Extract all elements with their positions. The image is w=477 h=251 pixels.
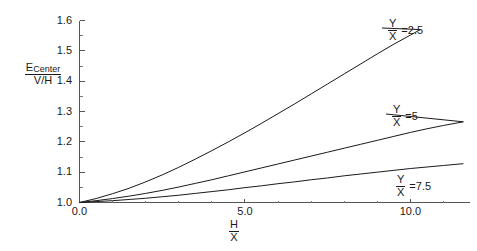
- x-tick-label: 10.0: [385, 206, 435, 217]
- y-tick-label: 1.1: [34, 166, 72, 177]
- y-tick-label: 1.3: [34, 106, 72, 117]
- series-label-fraction: YX: [392, 104, 401, 128]
- x-axis-title-numerator: H: [229, 219, 239, 232]
- series-label-denominator: X: [388, 31, 397, 43]
- series-label: YX=7.5: [396, 174, 431, 198]
- x-tick-label: 5.0: [220, 206, 270, 217]
- series-label-denominator: X: [392, 117, 401, 129]
- y-axis-title-fraction: ECenter V/H: [25, 62, 61, 86]
- series-label: YX=5: [392, 104, 418, 128]
- series-label-value: =5: [405, 111, 418, 122]
- series-label-fraction: YX: [396, 174, 405, 198]
- y-axis-title: ECenter V/H: [12, 62, 74, 86]
- series-label: YX=2.5: [388, 18, 423, 42]
- chart-figure: 1.01.11.21.31.41.51.6 0.05.010.0 YX=2.5Y…: [0, 0, 477, 251]
- series-label-numerator: Y: [388, 18, 397, 31]
- series-label-numerator: Y: [392, 104, 401, 117]
- y-tick-label: 1.5: [34, 45, 72, 56]
- series-label-denominator: X: [396, 187, 405, 199]
- y-axis-title-subscript: Center: [33, 64, 60, 74]
- x-axis-title-fraction: H X: [229, 219, 239, 243]
- x-tick-label: 0.0: [55, 206, 105, 217]
- x-axis-title-denominator: X: [229, 232, 239, 244]
- y-axis-title-denominator: V/H: [25, 75, 61, 87]
- x-axis-title: H X: [222, 219, 246, 243]
- y-tick-label: 1.6: [34, 15, 72, 26]
- series-curve: [80, 30, 421, 203]
- series-label-numerator: Y: [396, 174, 405, 187]
- series-label-value: =7.5: [409, 181, 431, 192]
- series-label-value: =2.5: [401, 25, 423, 36]
- series-label-fraction: YX: [388, 18, 397, 42]
- y-tick-label: 1.2: [34, 136, 72, 147]
- y-axis-title-numerator: ECenter: [25, 62, 61, 75]
